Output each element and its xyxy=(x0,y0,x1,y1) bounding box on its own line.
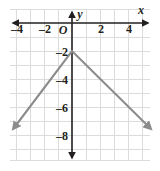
xtick-label-neg2: –2 xyxy=(38,22,51,36)
xtick-label-4: 4 xyxy=(126,22,132,36)
graph-svg: –4 –2 2 4 –2 –4 –6 –8 O y x xyxy=(0,0,160,171)
coordinate-graph-figure: –4 –2 2 4 –2 –4 –6 –8 O y x xyxy=(0,0,160,171)
ytick-label-neg4: –4 xyxy=(55,73,68,87)
xtick-label-2: 2 xyxy=(98,22,104,36)
ytick-label-neg6: –6 xyxy=(55,101,68,115)
ytick-label-neg2: –2 xyxy=(55,45,68,59)
y-axis-label: y xyxy=(75,7,83,21)
x-axis-label: x xyxy=(137,3,144,17)
origin-label: O xyxy=(59,23,68,37)
ytick-label-neg8: –8 xyxy=(55,129,68,143)
xtick-label-neg4: –4 xyxy=(10,22,23,36)
